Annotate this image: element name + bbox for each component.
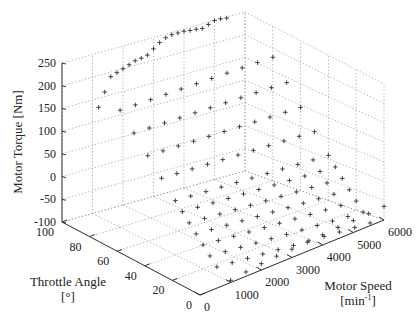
data-point-marker xyxy=(254,90,259,95)
data-point-marker xyxy=(218,17,223,22)
data-point-marker xyxy=(159,176,164,181)
data-point-marker xyxy=(201,243,206,248)
y-axis-label-line2: [°] xyxy=(61,289,75,304)
data-point-marker xyxy=(236,153,241,158)
data-point-marker xyxy=(293,217,298,222)
data-point-marker xyxy=(157,40,162,45)
data-point-marker xyxy=(200,26,205,31)
y-tick-mark xyxy=(200,293,205,295)
data-point-marker xyxy=(202,216,207,221)
data-point-marker xyxy=(118,108,123,113)
data-point-marker xyxy=(274,254,279,259)
data-point-marker xyxy=(339,203,344,208)
data-point-marker xyxy=(286,205,291,210)
data-point-marker xyxy=(194,81,199,86)
data-point-marker xyxy=(139,56,144,61)
data-point-marker xyxy=(190,167,195,172)
z-tick-label: 150 xyxy=(38,101,56,115)
data-point-marker xyxy=(315,223,320,228)
data-point-marker xyxy=(318,169,323,174)
x-tick-label: 2000 xyxy=(265,275,289,289)
data-point-marker xyxy=(284,232,289,237)
data-point-marker xyxy=(207,134,212,139)
data-point-marker xyxy=(332,192,337,197)
y-tick-label: 100 xyxy=(36,225,54,239)
z-tick-mark xyxy=(62,199,66,200)
data-point-marker xyxy=(179,87,184,92)
y-tick-label: 20 xyxy=(152,283,164,297)
floor-grid-line xyxy=(93,214,231,283)
data-points xyxy=(96,16,386,283)
data-point-marker xyxy=(316,196,321,201)
data-point-marker xyxy=(257,187,262,192)
data-point-marker xyxy=(145,53,150,58)
data-point-marker xyxy=(301,201,306,206)
data-point-marker xyxy=(216,238,221,243)
data-point-marker xyxy=(296,162,301,167)
data-point-marker xyxy=(284,80,289,85)
data-point-marker xyxy=(145,153,150,158)
data-point-marker xyxy=(346,214,351,219)
y-tick-label: 0 xyxy=(186,298,192,312)
data-point-marker xyxy=(225,71,230,76)
data-point-marker xyxy=(237,124,242,129)
data-point-marker xyxy=(188,194,193,199)
data-point-marker xyxy=(262,225,267,230)
data-point-marker xyxy=(195,205,200,210)
floor-grid-line xyxy=(117,191,300,252)
data-point-marker xyxy=(204,189,209,194)
data-point-marker xyxy=(163,35,168,40)
data-point-marker xyxy=(271,55,276,60)
data-point-marker xyxy=(326,153,331,158)
data-point-marker xyxy=(361,210,366,215)
data-point-marker xyxy=(188,28,193,33)
data-point-marker xyxy=(133,103,138,108)
data-point-marker xyxy=(263,199,268,204)
data-point-marker xyxy=(261,252,266,257)
data-point-marker xyxy=(266,143,271,148)
y-axis-label-line1: Throttle Angle xyxy=(30,274,106,289)
data-point-marker xyxy=(224,223,229,228)
x-tick-mark xyxy=(195,292,200,295)
x-tick-label: 5000 xyxy=(357,238,381,252)
z-tick-mark xyxy=(62,86,66,87)
data-point-marker xyxy=(265,171,270,176)
data-point-marker xyxy=(323,208,328,213)
data-point-marker xyxy=(259,261,264,266)
data-point-marker xyxy=(162,121,167,126)
data-point-marker xyxy=(96,105,101,110)
x-tick-mark xyxy=(348,230,353,233)
data-point-marker xyxy=(255,60,260,65)
data-point-marker xyxy=(311,158,316,163)
data-point-marker xyxy=(133,58,138,63)
data-point-marker xyxy=(209,76,214,81)
y-tick-mark xyxy=(172,278,177,280)
x-axis-label-line2: [min-1] xyxy=(340,293,376,308)
data-point-marker xyxy=(187,221,192,226)
data-point-marker xyxy=(193,111,198,116)
y-tick-label: 40 xyxy=(125,269,137,283)
data-point-marker xyxy=(382,204,387,209)
data-point-marker xyxy=(268,115,273,120)
floor-grid-line xyxy=(90,181,273,237)
data-point-marker xyxy=(248,203,253,208)
data-point-marker xyxy=(254,241,259,246)
data-point-marker xyxy=(182,29,187,34)
data-point-marker xyxy=(205,162,210,167)
back-wall-grid-line xyxy=(62,80,245,131)
data-point-marker xyxy=(277,221,282,226)
data-point-marker xyxy=(218,212,223,217)
data-point-marker xyxy=(308,212,313,217)
x-tick-mark xyxy=(318,242,323,245)
side-wall-grid-line xyxy=(245,57,384,122)
data-point-marker xyxy=(247,230,252,235)
data-point-marker xyxy=(121,66,126,71)
data-point-marker xyxy=(208,106,213,111)
data-point-marker xyxy=(219,185,224,190)
data-point-marker xyxy=(340,176,345,181)
data-point-marker xyxy=(177,116,182,121)
data-point-marker xyxy=(337,230,342,235)
3d-scatter-chart: -100-50050100150200250020406080100010002… xyxy=(0,0,420,320)
back-wall-grid-line xyxy=(62,148,245,199)
data-point-marker xyxy=(230,260,235,265)
